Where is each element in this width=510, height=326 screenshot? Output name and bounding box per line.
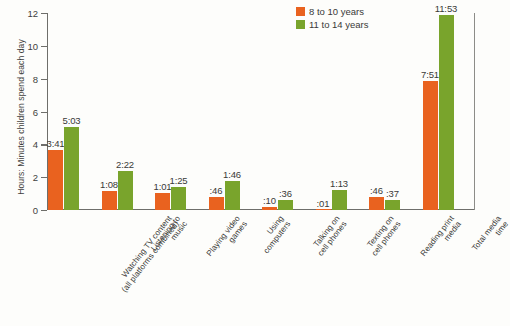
bar-value-label: 11:53 bbox=[435, 3, 458, 14]
y-axis-tick-label: 4 bbox=[33, 139, 38, 150]
bar-value-label: 1:13 bbox=[330, 178, 348, 189]
bar-value-label: 7:51 bbox=[421, 69, 439, 80]
bar[interactable] bbox=[225, 181, 240, 210]
bar-group: :46:37 bbox=[368, 13, 422, 210]
x-axis-category-label: Talking oncell phones bbox=[309, 214, 349, 258]
bar[interactable] bbox=[385, 200, 400, 210]
y-axis-title: Hours: Minutes children spend each day bbox=[16, 12, 26, 222]
x-axis-category-label: Playing videogames bbox=[205, 214, 250, 264]
bar-group: :10:36 bbox=[261, 13, 315, 210]
bar-value-label: 1:25 bbox=[169, 175, 187, 186]
bar[interactable] bbox=[102, 191, 117, 210]
bar-group: 1:082:22 bbox=[101, 13, 155, 210]
bar-group: 1:011:25 bbox=[154, 13, 208, 210]
bar-value-label: :37 bbox=[386, 188, 399, 199]
bar-value-label: 2:22 bbox=[116, 159, 134, 170]
bar[interactable] bbox=[64, 127, 79, 210]
bar-group: :011:13 bbox=[315, 13, 369, 210]
plot-area: 024681012 3:415:031:082:221:011:25:461:4… bbox=[47, 13, 475, 210]
bar-value-label: :36 bbox=[279, 188, 292, 199]
bar-value-label: 1:08 bbox=[100, 179, 118, 190]
bar-value-label: :10 bbox=[263, 195, 276, 206]
y-axis-tick-label: 6 bbox=[33, 106, 38, 117]
bar-value-label: :46 bbox=[370, 185, 383, 196]
legend-label: 11 to 14 years bbox=[309, 19, 369, 30]
bar-group: 7:5111:53 bbox=[422, 13, 476, 210]
bar[interactable] bbox=[332, 190, 347, 210]
bar-value-label: :01 bbox=[317, 198, 330, 209]
legend-swatch-icon bbox=[296, 20, 305, 29]
legend-item: 11 to 14 years bbox=[296, 19, 369, 30]
legend-label: 8 to 10 years bbox=[309, 6, 364, 17]
bar-value-label: 5:03 bbox=[62, 115, 80, 126]
y-axis-tick-label: 12 bbox=[27, 8, 38, 19]
legend: 8 to 10 years 11 to 14 years bbox=[296, 6, 369, 32]
bar[interactable] bbox=[278, 200, 293, 210]
bar-group: 3:415:03 bbox=[47, 13, 101, 210]
bar-value-label: :46 bbox=[210, 185, 223, 196]
x-axis-category-labels: Watching TV content(all platforms combin… bbox=[47, 214, 475, 324]
y-axis-tick bbox=[41, 210, 47, 211]
bar[interactable] bbox=[118, 171, 133, 210]
x-axis-category-label: Usingcomputers bbox=[254, 214, 292, 256]
bar[interactable] bbox=[171, 187, 186, 210]
bar-group: :461:46 bbox=[208, 13, 262, 210]
x-axis-category-label: Texting oncell phones bbox=[363, 214, 403, 258]
bar[interactable] bbox=[423, 81, 438, 210]
bar[interactable] bbox=[48, 150, 63, 210]
bar-groups: 3:415:031:082:221:011:25:461:46:10:36:01… bbox=[47, 13, 475, 210]
x-axis-category-label: Total mediatime bbox=[470, 214, 510, 259]
bar[interactable] bbox=[155, 193, 170, 210]
bar[interactable] bbox=[209, 197, 224, 210]
y-axis-tick-label: 10 bbox=[27, 40, 38, 51]
legend-swatch-icon bbox=[296, 7, 305, 16]
bar-value-label: 1:46 bbox=[223, 169, 241, 180]
y-axis-tick-label: 8 bbox=[33, 73, 38, 84]
y-axis-tick-label: 2 bbox=[33, 172, 38, 183]
bar[interactable] bbox=[439, 15, 454, 210]
bar-value-label: 3:41 bbox=[46, 138, 64, 149]
y-axis-tick-label: 0 bbox=[33, 205, 38, 216]
bar[interactable] bbox=[369, 197, 384, 210]
legend-item: 8 to 10 years bbox=[296, 6, 369, 17]
bar[interactable] bbox=[316, 209, 331, 210]
bar[interactable] bbox=[262, 207, 277, 210]
x-axis-category-label: Reading printmedia bbox=[419, 214, 464, 264]
